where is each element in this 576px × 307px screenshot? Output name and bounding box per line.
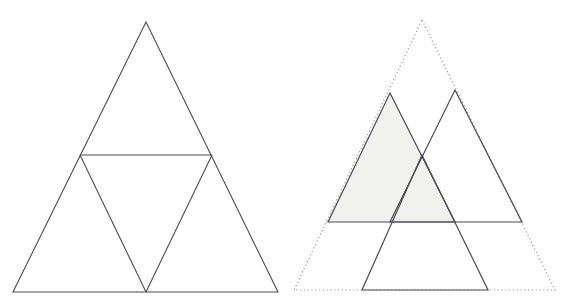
figure-canvas bbox=[0, 0, 576, 307]
canvas-background bbox=[0, 0, 576, 307]
